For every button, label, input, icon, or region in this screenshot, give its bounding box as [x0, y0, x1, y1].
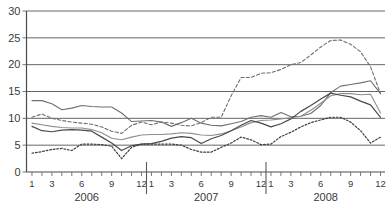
- xtick-label-2006-03: 3: [49, 178, 54, 189]
- ytick-label-10: 10: [8, 112, 20, 124]
- ytick-label-30: 30: [8, 5, 20, 17]
- ytick-label-25: 25: [8, 32, 20, 44]
- xtick-label-2007-03: 3: [169, 178, 174, 189]
- ytick-label-20: 20: [8, 58, 20, 70]
- xtick-label-2008-03: 3: [288, 178, 293, 189]
- chart-canvas: 0510152025301369121369121369122006200720…: [0, 0, 391, 207]
- xtick-label-2006-01: 1: [29, 178, 34, 189]
- xtick-label-2007-09: 9: [228, 178, 233, 189]
- series-line-series-4: [32, 40, 381, 133]
- series-line-series-2: [32, 94, 381, 140]
- xtick-label-2007-01: 1: [149, 178, 154, 189]
- xtick-label-2006-06: 6: [79, 178, 84, 189]
- xtick-label-2008-06: 6: [318, 178, 323, 189]
- ytick-label-15: 15: [8, 85, 20, 97]
- line-chart: 0510152025301369121369121369122006200720…: [0, 0, 391, 207]
- year-label-2008: 2008: [314, 191, 338, 203]
- year-label-2006: 2006: [75, 191, 99, 203]
- xtick-label-2007-06: 6: [199, 178, 204, 189]
- xtick-label-2006-12: 12: [136, 178, 147, 189]
- series-line-series-3: [32, 93, 381, 150]
- xtick-label-2008-09: 9: [348, 178, 353, 189]
- xtick-label-2006-09: 9: [109, 178, 114, 189]
- xtick-label-2008-01: 1: [268, 178, 273, 189]
- xtick-label-2008-12: 12: [375, 178, 386, 189]
- ytick-label-5: 5: [14, 139, 20, 151]
- year-label-2007: 2007: [194, 191, 218, 203]
- ytick-label-0: 0: [14, 166, 20, 178]
- xtick-label-2007-12: 12: [256, 178, 267, 189]
